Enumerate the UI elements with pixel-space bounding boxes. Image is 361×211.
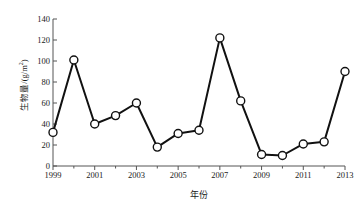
data-point-markers — [49, 34, 349, 160]
y-axis-tick-label: 40 — [16, 120, 50, 129]
data-point-marker — [258, 150, 266, 158]
x-axis-tick-label: 2007 — [200, 170, 240, 180]
y-axis-tick-label: 140 — [16, 15, 50, 24]
y-axis-tick-label: 120 — [16, 36, 50, 45]
data-point-marker — [174, 129, 182, 137]
data-point-marker — [153, 143, 161, 151]
x-axis-tick-label: 1999 — [33, 170, 73, 180]
x-axis-tick-labels: 19992001200320052007200920112013 — [0, 170, 361, 184]
x-axis-tick-label: 2003 — [116, 170, 156, 180]
data-point-marker — [278, 152, 286, 160]
data-point-marker — [70, 56, 78, 64]
y-axis-tick-marks — [53, 19, 57, 166]
data-point-marker — [341, 68, 349, 76]
x-axis-tick-label: 2009 — [242, 170, 282, 180]
y-axis-tick-label: 20 — [16, 141, 50, 150]
data-point-marker — [132, 99, 140, 107]
plot-area — [53, 19, 345, 166]
biomass-line-chart: 生物量/(g/m2) 020406080100120140 1999200120… — [0, 0, 361, 211]
x-axis-tick-label: 2013 — [325, 170, 361, 180]
data-line-biomass — [53, 38, 345, 156]
data-point-marker — [195, 126, 203, 134]
x-axis-title: 年份 — [53, 188, 345, 201]
data-point-marker — [49, 128, 57, 136]
chart-svg — [53, 19, 345, 166]
data-point-marker — [91, 120, 99, 128]
y-axis-tick-label: 100 — [16, 57, 50, 66]
x-axis-tick-label: 2005 — [158, 170, 198, 180]
x-axis-tick-label: 2001 — [75, 170, 115, 180]
data-point-marker — [237, 97, 245, 105]
data-point-marker — [320, 138, 328, 146]
y-axis-tick-label: 60 — [16, 99, 50, 108]
data-point-marker — [299, 140, 307, 148]
y-axis-tick-label: 80 — [16, 78, 50, 87]
x-axis-tick-label: 2011 — [283, 170, 323, 180]
data-point-marker — [216, 34, 224, 42]
data-point-marker — [112, 112, 120, 120]
